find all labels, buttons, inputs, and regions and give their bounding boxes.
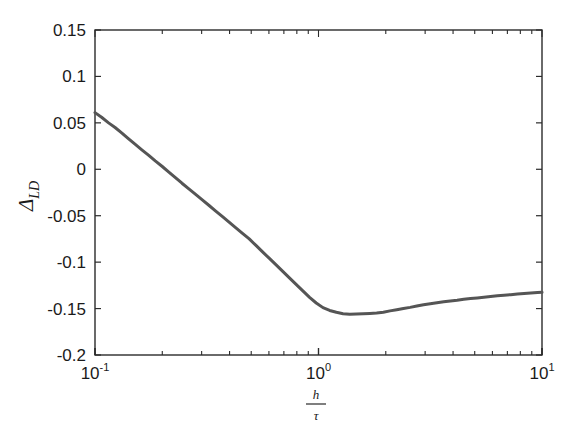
y-tick-label: 0.1 bbox=[62, 67, 86, 86]
figure-container: 0.150.10.050-0.05-0.1-0.15-0.2 10-110010… bbox=[0, 0, 584, 428]
y-tick-label: 0.05 bbox=[53, 114, 86, 133]
x-axis-label-numerator: h bbox=[313, 387, 320, 402]
y-tick-label: -0.05 bbox=[47, 207, 86, 226]
y-tick-label: -0.1 bbox=[57, 253, 86, 272]
y-tick-label: -0.2 bbox=[57, 346, 86, 365]
y-tick-label: 0.15 bbox=[53, 21, 86, 40]
y-tick-label: 0 bbox=[77, 160, 86, 179]
y-tick-label: -0.15 bbox=[47, 300, 86, 319]
semilog-plot: 0.150.10.050-0.05-0.1-0.15-0.2 10-110010… bbox=[0, 0, 584, 428]
